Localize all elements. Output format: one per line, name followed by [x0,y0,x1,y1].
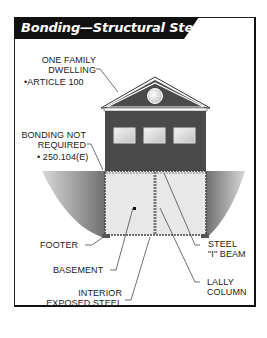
basement [102,171,209,238]
label-text: COLUMN [207,287,247,297]
label-article-100: •ARTICLE 100 [24,77,84,87]
label-text: LALLY [207,277,247,287]
label-footer: FOOTER [40,240,78,250]
label-steel-i-beam: STEEL "I" BEAM [208,239,246,259]
label-interior-exposed-steel: INTERIOR EXPOSED STEEL [38,288,122,308]
label-text: STEEL [208,239,246,249]
label-bonding-not-required: BONDING NOT REQUIRED [14,130,86,150]
label-text: DWELLING [38,65,96,75]
label-250-104e: • 250.104(E) [37,152,88,162]
windows [114,128,195,143]
label-text: INTERIOR [38,288,122,298]
label-basement: BASEMENT [53,265,103,275]
label-one-family-dwelling: ONE FAMILY DWELLING [38,55,96,75]
label-text: EXPOSED STEEL [38,298,122,308]
label-text: "I" BEAM [208,249,246,259]
label-lally-column: LALLY COLUMN [207,277,247,297]
label-text: BONDING NOT [14,130,86,140]
label-text: REQUIRED [14,140,86,150]
label-text: ONE FAMILY [38,55,96,65]
